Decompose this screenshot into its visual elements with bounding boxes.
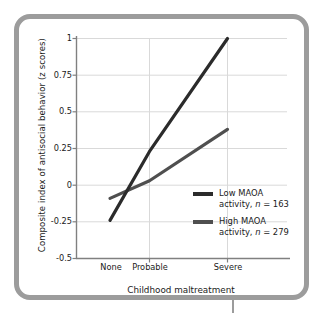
y-tick-label-0.75: 0.75 (36, 70, 72, 80)
legend-label-low-line1: Low MAOA (219, 188, 263, 198)
legend-item-low-maoa: Low MAOA activity, n = 163 (193, 188, 303, 209)
legend-label-low-line2-post: = 163 (261, 199, 289, 209)
legend-label-low-maoa: Low MAOA activity, n = 163 (219, 188, 289, 209)
y-tick-label--0.5: -0.5 (36, 253, 72, 263)
chart-legend: Low MAOA activity, n = 163 High MAOA act… (193, 188, 303, 244)
figure-root: Composite index of antisocial behavior (… (0, 0, 331, 316)
x-tick-label-probable: Probable (115, 262, 185, 272)
legend-label-low-line2-pre: activity, (219, 199, 255, 209)
legend-swatch-high-maoa (193, 220, 213, 224)
legend-label-high-line2-post: = 279 (261, 227, 289, 237)
x-tick-label-severe: Severe (193, 262, 263, 272)
line-chart: Composite index of antisocial behavior (… (0, 0, 331, 316)
legend-item-high-maoa: High MAOA activity, n = 279 (193, 216, 303, 237)
y-tick-label-0: 0 (36, 180, 72, 190)
y-tick-labels: 1 0.75 0.5 0.25 0 -0.25 -0.5 (32, 0, 72, 316)
y-tick-label-0.5: 0.5 (36, 106, 72, 116)
x-axis-title: Childhood maltreatment (76, 285, 286, 295)
legend-swatch-low-maoa (193, 192, 213, 196)
legend-label-high-maoa: High MAOA activity, n = 279 (219, 216, 289, 237)
y-tick-label--0.25: -0.25 (36, 216, 72, 226)
legend-label-high-line2-pre: activity, (219, 227, 255, 237)
y-tick-label-0.25: 0.25 (36, 143, 72, 153)
y-tick-label-1: 1 (36, 33, 72, 43)
legend-label-high-line1: High MAOA (219, 216, 266, 226)
